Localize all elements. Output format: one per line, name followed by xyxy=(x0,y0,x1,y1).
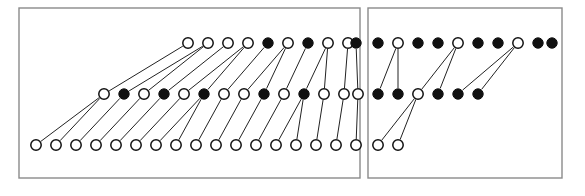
open-circle-node-m8 xyxy=(239,89,249,99)
open-circle-node-t8 xyxy=(323,38,333,48)
open-circle-node-m14 xyxy=(353,89,363,99)
open-circle-node-b2 xyxy=(51,140,61,150)
open-circle-node-m1 xyxy=(99,89,109,99)
open-circle-node-b8 xyxy=(171,140,181,150)
closed-circle-node-M6 xyxy=(473,89,483,99)
open-circle-node-m3 xyxy=(139,89,149,99)
open-circle-node-m5 xyxy=(179,89,189,99)
open-circle-node-m13 xyxy=(339,89,349,99)
open-circle-node-t3 xyxy=(223,38,233,48)
closed-circle-node-T9 xyxy=(533,38,543,48)
closed-circle-node-T1 xyxy=(373,38,383,48)
open-circle-node-t4 xyxy=(243,38,253,48)
closed-circle-node-T6 xyxy=(473,38,483,48)
open-circle-node-T8 xyxy=(513,38,523,48)
node-diagram xyxy=(0,0,585,196)
open-circle-node-t6 xyxy=(283,38,293,48)
closed-circle-node-m6 xyxy=(199,89,209,99)
open-circle-node-b15 xyxy=(311,140,321,150)
open-circle-node-b1 xyxy=(31,140,41,150)
open-circle-node-b12 xyxy=(251,140,261,150)
closed-circle-node-m4 xyxy=(159,89,169,99)
open-circle-node-b4 xyxy=(91,140,101,150)
open-circle-node-m7 xyxy=(219,89,229,99)
closed-circle-node-M5 xyxy=(453,89,463,99)
open-circle-node-b6 xyxy=(131,140,141,150)
closed-circle-node-m11 xyxy=(299,89,309,99)
open-circle-node-T5 xyxy=(453,38,463,48)
open-circle-node-t2 xyxy=(203,38,213,48)
open-circle-node-b9 xyxy=(191,140,201,150)
open-circle-node-m12 xyxy=(319,89,329,99)
open-circle-node-b5 xyxy=(111,140,121,150)
open-circle-node-b11 xyxy=(231,140,241,150)
closed-circle-node-M2 xyxy=(393,89,403,99)
open-circle-node-b16 xyxy=(331,140,341,150)
closed-circle-node-T10 xyxy=(547,38,557,48)
closed-circle-node-t5 xyxy=(263,38,273,48)
open-circle-node-b17 xyxy=(351,140,361,150)
closed-circle-node-T3 xyxy=(413,38,423,48)
closed-circle-node-T4 xyxy=(433,38,443,48)
open-circle-node-b10 xyxy=(211,140,221,150)
open-circle-node-B1 xyxy=(373,140,383,150)
closed-circle-node-t10 xyxy=(351,38,361,48)
open-circle-node-b7 xyxy=(151,140,161,150)
open-circle-node-T2 xyxy=(393,38,403,48)
open-circle-node-m10 xyxy=(279,89,289,99)
open-circle-node-B2 xyxy=(393,140,403,150)
open-circle-node-b3 xyxy=(71,140,81,150)
open-circle-node-b14 xyxy=(291,140,301,150)
closed-circle-node-m2 xyxy=(119,89,129,99)
open-circle-node-M3 xyxy=(413,89,423,99)
closed-circle-node-T7 xyxy=(493,38,503,48)
closed-circle-node-m9 xyxy=(259,89,269,99)
closed-circle-node-M1 xyxy=(373,89,383,99)
open-circle-node-t1 xyxy=(183,38,193,48)
closed-circle-node-t7 xyxy=(303,38,313,48)
figure-canvas xyxy=(0,0,585,196)
open-circle-node-b13 xyxy=(271,140,281,150)
closed-circle-node-M4 xyxy=(433,89,443,99)
